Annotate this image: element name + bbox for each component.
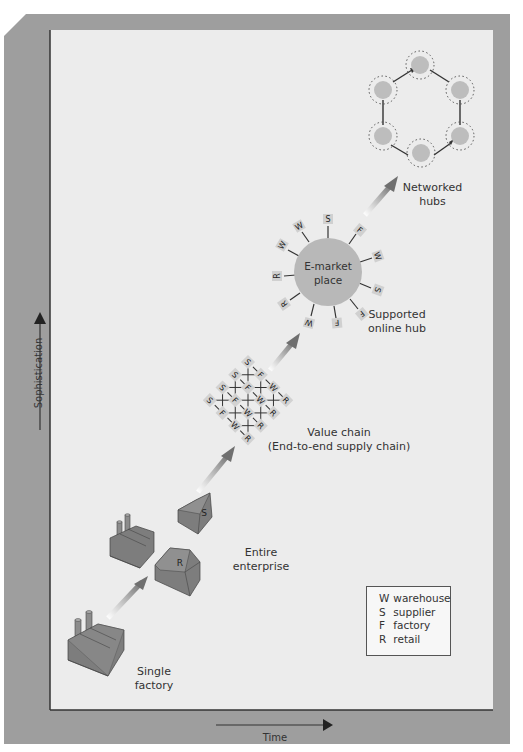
supplier-letter: S [201, 508, 207, 518]
x-axis-label: Time [250, 732, 300, 743]
legend-item: R retail [379, 633, 450, 647]
emarket-label: E-market place [296, 259, 360, 287]
legend-item: F factory [379, 619, 450, 633]
stage-label-entire-enterprise: Entire enterprise [226, 546, 296, 574]
stage-label-single-factory: Single factory [124, 665, 184, 693]
svg-text:R: R [273, 273, 282, 279]
stage-label-value-chain: Value chain (End-to-end supply chain) [254, 426, 424, 454]
stage-label-networked-hubs: Networked hubs [395, 181, 470, 209]
y-axis-label: Sophistication [33, 333, 44, 413]
svg-text:S: S [325, 215, 330, 224]
legend: W warehouse S supplier F factory R retai… [366, 586, 451, 656]
legend-item: W warehouse [379, 592, 450, 606]
stage-label-supported-online-hub: Supported online hub [357, 308, 437, 336]
retail-letter: R [177, 558, 183, 568]
legend-item: S supplier [379, 606, 450, 620]
